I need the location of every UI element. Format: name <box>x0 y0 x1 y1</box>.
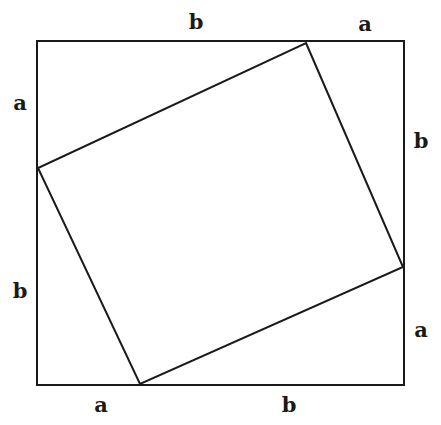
side-label-bottom-a: a <box>94 394 108 415</box>
side-label-left-a: a <box>13 92 27 113</box>
side-label-left-b: b <box>13 280 28 301</box>
side-label-top-a: a <box>358 13 372 34</box>
side-label-top-b: b <box>189 11 204 32</box>
side-label-bottom-b: b <box>282 394 297 415</box>
side-label-right-a: a <box>414 319 428 340</box>
outer-square <box>37 41 404 385</box>
side-label-right-b: b <box>414 130 429 151</box>
geometry-figure <box>0 0 441 425</box>
pythagorean-diagram: b a a b b a a b <box>0 0 441 425</box>
